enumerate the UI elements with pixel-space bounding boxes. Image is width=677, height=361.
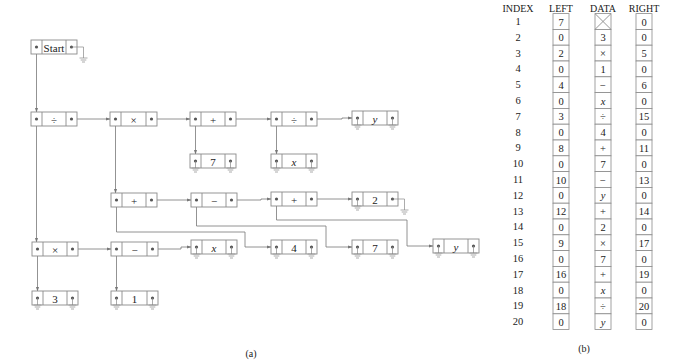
- left-pointer-dot: [275, 197, 278, 200]
- tree-node: −: [111, 242, 158, 256]
- table-row: 2030: [515, 29, 652, 45]
- row-index: 16: [513, 253, 524, 264]
- data-value: +: [600, 206, 606, 217]
- table-row: 16070: [513, 251, 652, 267]
- row-index: 18: [513, 285, 524, 296]
- table-row: 1312+14: [513, 203, 652, 219]
- data-value: ÷: [600, 301, 606, 312]
- data-value: 1: [600, 64, 605, 75]
- tree-node: x: [271, 154, 317, 172]
- right-value: 0: [641, 159, 646, 170]
- right-value: 13: [639, 175, 650, 186]
- node-label: +: [291, 194, 297, 206]
- right-pointer-dot: [150, 117, 153, 120]
- data-value: +: [600, 143, 606, 154]
- right-pointer-dot: [71, 247, 74, 250]
- right-pointer-dot: [70, 117, 73, 120]
- right-value: 0: [641, 64, 646, 75]
- right-value: 5: [641, 48, 646, 59]
- table-row: 200y0: [513, 314, 652, 330]
- node-label: 4: [291, 242, 297, 254]
- node-label: 1: [132, 293, 138, 305]
- table-row: 4010: [515, 61, 652, 77]
- right-value: 0: [641, 222, 646, 233]
- row-index: 6: [515, 95, 520, 106]
- data-value: y: [600, 190, 606, 201]
- table-row: 73÷15: [515, 108, 652, 124]
- left-value: 0: [558, 64, 563, 75]
- left-pointer-dot: [275, 117, 278, 120]
- tree-node: y: [433, 239, 479, 257]
- left-value: 0: [558, 285, 563, 296]
- row-index: 3: [515, 48, 520, 59]
- table-row: 1716+19: [513, 266, 652, 282]
- node-label: x: [211, 242, 217, 254]
- data-value: 3: [600, 32, 605, 43]
- table-row: 54−6: [515, 77, 652, 93]
- tree-node: +: [271, 192, 317, 206]
- row-index: 2: [515, 32, 520, 43]
- left-pointer-dot: [115, 247, 118, 250]
- right-value: 0: [641, 317, 646, 328]
- header-right: RIGHT: [629, 3, 660, 14]
- row-index: 9: [515, 142, 520, 153]
- row-index: 4: [515, 63, 521, 74]
- node-label: ÷: [51, 114, 57, 126]
- tree-node: 7: [352, 240, 398, 258]
- figure: Start÷×+÷y7x+−+2×−x47y31 (a) INDEX LEFT …: [0, 0, 677, 361]
- table-row: 180x0: [513, 282, 652, 298]
- left-value: 12: [556, 206, 567, 217]
- tree-node: 2: [352, 192, 409, 214]
- tree-node: 3: [32, 291, 78, 309]
- left-value: 3: [558, 111, 563, 122]
- right-pointer-dot: [310, 197, 313, 200]
- tree-node: y: [352, 111, 398, 129]
- left-value: 8: [558, 143, 563, 154]
- tree-node: 1: [111, 291, 158, 309]
- right-value: 0: [641, 32, 646, 43]
- left-pointer-dot: [194, 117, 197, 120]
- right-value: 20: [639, 301, 650, 312]
- array-representation-table: INDEX LEFT DATA RIGHT 170203032×5401054−…: [502, 3, 659, 355]
- left-value: 7: [558, 17, 563, 28]
- left-value: 0: [558, 254, 563, 265]
- table-row: 170: [515, 14, 652, 30]
- node-label: +: [210, 114, 216, 126]
- right-pointer-dot: [150, 198, 153, 201]
- data-value: y: [600, 317, 606, 328]
- left-value: 0: [558, 317, 563, 328]
- tree-node: −: [191, 193, 237, 207]
- right-pointer-dot: [230, 198, 233, 201]
- node-label: 7: [210, 156, 216, 168]
- node-label: +: [131, 195, 137, 207]
- row-index: 5: [515, 79, 520, 90]
- left-pointer-dot: [115, 198, 118, 201]
- table-row: 159×17: [513, 235, 652, 251]
- data-value: x: [600, 96, 606, 107]
- left-value: 4: [558, 80, 564, 91]
- row-index: 14: [513, 221, 524, 232]
- right-value: 0: [641, 96, 646, 107]
- left-value: 9: [558, 238, 563, 249]
- left-value: 2: [558, 48, 563, 59]
- left-pointer-dot: [35, 117, 38, 120]
- left-pointer-dot: [114, 117, 117, 120]
- row-index: 20: [513, 316, 524, 327]
- data-value: −: [600, 175, 606, 186]
- right-value: 0: [641, 285, 646, 296]
- table-row: 14020: [513, 219, 652, 235]
- caption-b: (b): [578, 343, 590, 355]
- tree-nodes: Start÷×+÷y7x+−+2×−x47y31: [31, 40, 479, 309]
- table-row: 1918÷20: [513, 298, 652, 314]
- data-value: −: [600, 80, 606, 91]
- header-left: LEFT: [549, 3, 573, 14]
- header-index: INDEX: [502, 3, 534, 14]
- table-row: 1110−13: [513, 172, 652, 188]
- data-value: 7: [600, 159, 605, 170]
- left-value: 10: [556, 175, 567, 186]
- caption-a: (a): [245, 348, 256, 360]
- table-header: INDEX LEFT DATA RIGHT: [502, 3, 659, 14]
- table-row: 60x0: [515, 93, 652, 109]
- tree-node: +: [190, 112, 236, 126]
- right-value: 15: [639, 111, 650, 122]
